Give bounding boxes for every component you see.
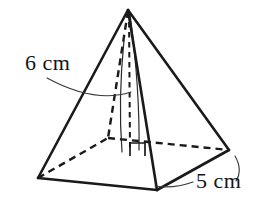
pyramid-figure: 6 cm 5 cm — [0, 0, 262, 209]
label-base-edge: 5 cm — [196, 170, 241, 192]
right-angle-marker — [130, 143, 145, 156]
base-edge-left-front — [38, 178, 157, 190]
height-line-apex-to-base-center — [129, 12, 130, 150]
auxiliary-apex-curve-left — [120, 40, 124, 152]
label-slant-height: 6 cm — [25, 52, 70, 74]
leader-line-base-edge — [155, 182, 193, 187]
hidden-base-edge-back-right — [108, 138, 229, 150]
lateral-edge-apex-front — [128, 10, 157, 190]
lateral-edge-apex-right — [128, 10, 229, 150]
